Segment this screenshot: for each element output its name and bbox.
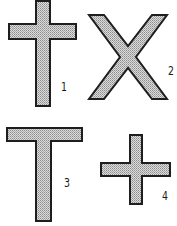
shape-label-2: 2 (168, 64, 174, 77)
x-cross-shape (89, 15, 167, 99)
shape-label-4: 4 (162, 189, 168, 202)
shape-label-1: 1 (61, 80, 67, 93)
t-cross-shape (7, 128, 82, 221)
cross-shapes-figure (0, 0, 177, 226)
greek-cross-shape (101, 135, 170, 204)
shape-label-3: 3 (64, 176, 70, 189)
